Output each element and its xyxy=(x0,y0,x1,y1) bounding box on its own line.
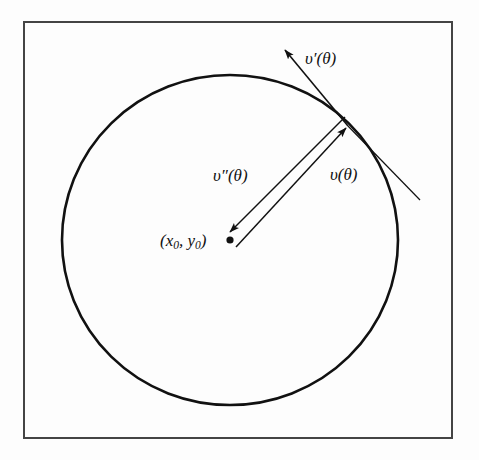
center-label-separator: , xyxy=(179,231,188,250)
tangent-line xyxy=(348,126,420,200)
vector-v-line xyxy=(236,128,346,247)
label-center-point: (x0, y0) xyxy=(160,232,207,252)
figure-border xyxy=(24,22,452,438)
label-v-text: υ(θ) xyxy=(330,165,357,184)
figure-canvas xyxy=(0,0,479,460)
label-v-double-prime: υ″(θ) xyxy=(213,167,248,184)
center-dot xyxy=(226,236,233,243)
label-v: υ(θ) xyxy=(330,166,357,183)
center-label-y: y xyxy=(188,231,196,250)
label-v-double-prime-text: υ″(θ) xyxy=(213,166,248,185)
figure-root: υ′(θ) υ(θ) υ″(θ) (x0, y0) xyxy=(0,0,479,460)
label-v-prime-text: υ′(θ) xyxy=(305,49,336,68)
center-label-close-paren: ) xyxy=(201,231,207,250)
label-v-prime: υ′(θ) xyxy=(305,50,336,67)
